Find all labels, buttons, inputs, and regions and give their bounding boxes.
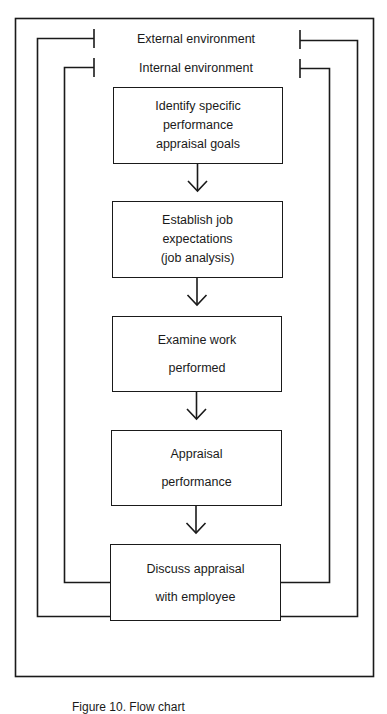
step-text: Examine work [158, 326, 237, 354]
step-box-appraisal-performance: Appraisal performance [111, 430, 282, 506]
step-box-examine-work: Examine work performed [112, 316, 282, 392]
down-arrow-icon [187, 391, 206, 419]
step-text: Establish job [162, 211, 233, 230]
down-arrow-icon [187, 505, 206, 533]
step-text: performance [163, 116, 233, 135]
down-arrow-icon [188, 163, 207, 191]
step-text: Identify specific [155, 97, 240, 116]
external-environment-label: External environment [96, 32, 296, 46]
step-text: Appraisal [170, 440, 222, 468]
step-text: with employee [156, 583, 236, 611]
step-box-discuss-appraisal: Discuss appraisal with employee [110, 544, 281, 621]
step-text: Discuss appraisal [147, 555, 245, 583]
figure-caption: Figure 10. Flow chart [72, 700, 185, 714]
step-text: appraisal goals [156, 135, 240, 154]
step-box-identify-goals: Identify specific performance appraisal … [113, 87, 283, 164]
step-text: (job analysis) [161, 249, 235, 268]
step-box-establish-expectations: Establish job expectations (job analysis… [112, 201, 283, 278]
down-arrow-icon [188, 277, 207, 305]
internal-environment-label: Internal environment [96, 61, 296, 75]
step-text: performed [169, 354, 226, 382]
step-text: performance [161, 468, 231, 496]
step-text: expectations [162, 230, 232, 249]
